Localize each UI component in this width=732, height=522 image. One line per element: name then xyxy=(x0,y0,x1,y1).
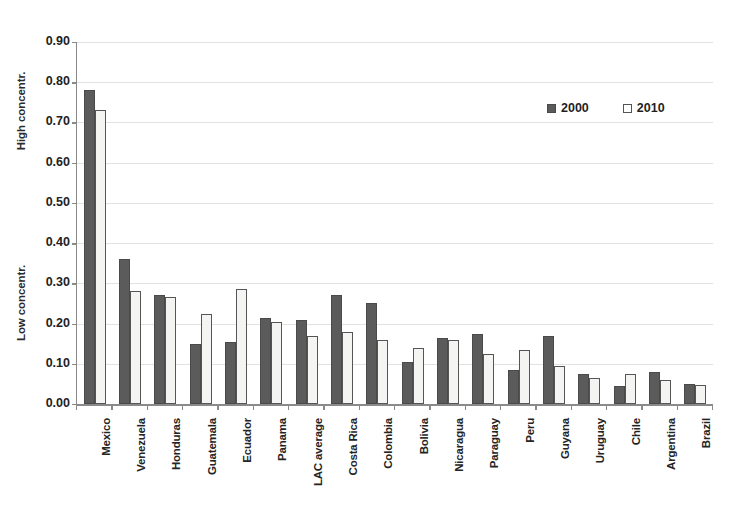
y-axis-tick-label: 0.80 xyxy=(30,75,70,88)
x-axis-tick-mark xyxy=(500,404,501,410)
y-axis-tick-label: 0.50 xyxy=(30,196,70,209)
bar-2010 xyxy=(201,314,212,405)
bar-2000 xyxy=(614,386,625,404)
x-axis-category-label: Panama xyxy=(276,418,288,522)
x-axis-tick-mark xyxy=(429,404,430,410)
x-axis-tick-mark xyxy=(323,404,324,410)
filled-square-icon xyxy=(547,104,556,113)
bar-2000 xyxy=(296,320,307,404)
legend-label: 2010 xyxy=(637,101,665,115)
bar-2000 xyxy=(684,384,695,404)
bar-2010 xyxy=(660,380,671,404)
bar-group xyxy=(324,42,359,404)
plot-area xyxy=(76,42,713,404)
x-axis-tick-mark xyxy=(677,404,678,410)
bar-2010 xyxy=(307,336,318,404)
bar-2000 xyxy=(578,374,589,404)
bar-group xyxy=(572,42,607,404)
x-axis-tick-mark xyxy=(359,404,360,410)
bar-2000 xyxy=(260,318,271,404)
x-axis-tick-mark xyxy=(111,404,112,410)
x-axis-category-label: Honduras xyxy=(170,418,182,522)
bar-2010 xyxy=(413,348,424,404)
y-axis-title-high: High concentr. xyxy=(15,66,27,156)
bar-chart: High concentr. Low concentr. 0.900.800.7… xyxy=(0,0,732,522)
x-axis-tick-mark xyxy=(394,404,395,410)
x-axis-category-label: Mexico xyxy=(100,418,112,522)
x-axis-tick-mark xyxy=(76,404,77,410)
bar-2010 xyxy=(519,350,530,404)
bar-2010 xyxy=(377,340,388,404)
bar-2000 xyxy=(84,90,95,404)
y-axis-tick-label: 0.00 xyxy=(30,397,70,410)
x-axis-category-label: Peru xyxy=(524,418,536,522)
bar-group xyxy=(536,42,571,404)
bar-2000 xyxy=(437,338,448,404)
bar-2010 xyxy=(695,385,706,404)
x-axis-category-label: Colombia xyxy=(382,418,394,522)
bar-2000 xyxy=(331,295,342,404)
bar-group xyxy=(395,42,430,404)
y-axis-tick-label: 0.20 xyxy=(30,317,70,330)
x-axis-category-label: Paraguay xyxy=(488,418,500,522)
open-square-icon xyxy=(623,104,632,113)
bar-2000 xyxy=(508,370,519,404)
bar-group xyxy=(218,42,253,404)
x-axis-tick-mark xyxy=(606,404,607,410)
x-axis-category-label: Ecuador xyxy=(241,418,253,522)
bar-2010 xyxy=(271,322,282,404)
bar-2010 xyxy=(625,374,636,404)
bar-group xyxy=(430,42,465,404)
bar-group xyxy=(360,42,395,404)
bar-2000 xyxy=(154,295,165,404)
x-axis-tick-mark xyxy=(288,404,289,410)
x-axis-category-label: Brazil xyxy=(700,418,712,522)
y-axis-tick-label: 0.30 xyxy=(30,276,70,289)
bar-group xyxy=(642,42,677,404)
x-axis-category-label: LAC average xyxy=(312,418,324,522)
bar-2000 xyxy=(119,259,130,404)
y-axis-tick-label: 0.40 xyxy=(30,236,70,249)
x-axis-category-label: Chile xyxy=(630,418,642,522)
x-axis-category-label: Argentina xyxy=(665,418,677,522)
bar-2010 xyxy=(448,340,459,404)
bar-2010 xyxy=(130,291,141,404)
x-axis-category-label: Venezuela xyxy=(135,418,147,522)
y-axis-title-low: Low concentr. xyxy=(15,258,27,348)
bar-group xyxy=(183,42,218,404)
y-axis-tick-label: 0.70 xyxy=(30,115,70,128)
y-axis-tick-label: 0.60 xyxy=(30,156,70,169)
bar-group xyxy=(466,42,501,404)
bar-2000 xyxy=(190,344,201,404)
bar-2010 xyxy=(589,378,600,404)
bar-2000 xyxy=(366,303,377,404)
bar-2010 xyxy=(554,366,565,404)
bar-2000 xyxy=(649,372,660,404)
legend-entry: 2010 xyxy=(623,101,665,115)
bar-group xyxy=(289,42,324,404)
x-axis-tick-mark xyxy=(217,404,218,410)
bar-group xyxy=(112,42,147,404)
bar-group xyxy=(254,42,289,404)
x-axis-category-label: Uruguay xyxy=(594,418,606,522)
x-axis-tick-mark xyxy=(712,404,713,410)
bar-2010 xyxy=(95,110,106,404)
x-axis-tick-mark xyxy=(253,404,254,410)
bars-layer xyxy=(77,42,713,404)
bar-2010 xyxy=(483,354,494,404)
bar-2000 xyxy=(472,334,483,404)
legend: 20002010 xyxy=(547,101,665,115)
x-axis-category-label: Guyana xyxy=(559,418,571,522)
x-axis-category-label: Guatemala xyxy=(206,418,218,522)
x-axis-category-label: Nicaragua xyxy=(453,418,465,522)
legend-label: 2000 xyxy=(561,101,589,115)
bar-group xyxy=(607,42,642,404)
bar-2000 xyxy=(543,336,554,404)
y-axis-tick-labels: 0.900.800.700.600.500.400.300.200.100.00 xyxy=(28,0,70,522)
bar-2000 xyxy=(225,342,236,404)
y-axis-tick-label: 0.10 xyxy=(30,357,70,370)
bar-2010 xyxy=(236,289,247,404)
x-axis-tick-mark xyxy=(571,404,572,410)
bar-group xyxy=(148,42,183,404)
bar-group xyxy=(501,42,536,404)
